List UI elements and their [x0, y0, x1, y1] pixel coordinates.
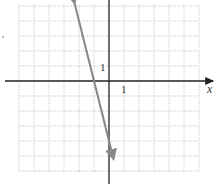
coordinate-plane: x11: [0, 0, 219, 189]
x-tick-label: 1: [121, 83, 127, 95]
y-tick-label: 1: [100, 61, 106, 73]
x-axis-label: x: [206, 82, 213, 96]
stray-mark: [2, 36, 4, 38]
